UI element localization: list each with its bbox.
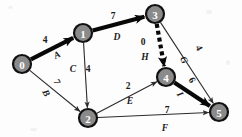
node-0-label: 0: [19, 59, 25, 71]
node-4-label: 4: [163, 72, 169, 84]
edge-2-4-activity-label: E: [126, 96, 133, 106]
edge-0-to-2: [30, 70, 80, 111]
edge-3-4-activity-label: H: [140, 52, 149, 62]
node-2-label: 2: [85, 113, 91, 125]
node-1[interactable]: 1: [74, 24, 92, 42]
node-1-label: 1: [80, 28, 86, 40]
edge-2-to-5: [98, 112, 209, 117]
node-4[interactable]: 4: [157, 68, 175, 86]
edge-3-to-4: [157, 24, 164, 66]
node-5[interactable]: 5: [210, 103, 228, 121]
edge-2-5-duration-label: 7: [165, 105, 170, 115]
edge-1-to-3: [93, 17, 145, 31]
edge-1-3-duration-label: 7: [111, 11, 116, 21]
edge-1-to-2: [84, 43, 88, 108]
edge-0-2-activity-label: B: [40, 87, 52, 98]
edge-0-1-activity-label: A: [51, 49, 62, 61]
activity-network-diagram: 012345 4A7B4C7D0H4G2E7F6I: [0, 0, 242, 137]
edge-1-3-activity-label: D: [113, 32, 121, 42]
edge-label-layer: 4A7B4C7D0H4G2E7F6I: [40, 11, 205, 133]
edge-layer: [30, 17, 214, 118]
edge-4-5-activity-label: I: [174, 89, 185, 98]
node-5-label: 5: [216, 107, 222, 119]
edge-2-5-activity-label: F: [161, 123, 169, 133]
edge-3-5-duration-label: 4: [193, 44, 204, 53]
node-2[interactable]: 2: [79, 109, 97, 127]
edge-1-2-duration-label: 4: [86, 64, 91, 74]
edge-4-5-duration-label: 6: [186, 75, 197, 84]
edge-3-4-duration-label: 0: [141, 37, 146, 47]
edge-2-4-duration-label: 2: [126, 81, 131, 91]
edge-0-2-duration-label: 7: [51, 78, 62, 87]
node-3[interactable]: 3: [146, 5, 164, 23]
edge-3-5-activity-label: G: [178, 55, 190, 66]
edge-1-2-activity-label: C: [70, 64, 77, 74]
node-0[interactable]: 0: [13, 55, 31, 73]
node-3-label: 3: [152, 9, 158, 21]
edge-0-1-duration-label: 4: [43, 35, 48, 45]
edge-0-to-1: [31, 38, 73, 59]
network-graph-canvas: 012345 4A7B4C7D0H4G2E7F6I: [0, 0, 242, 137]
